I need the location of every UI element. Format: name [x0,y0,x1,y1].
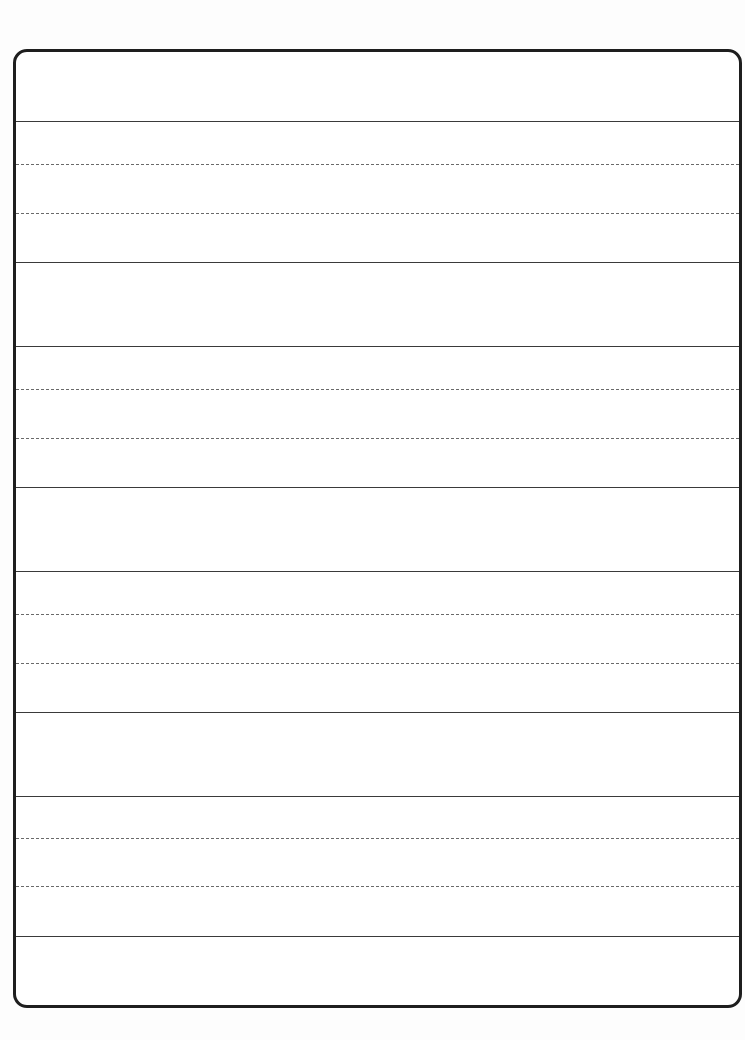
guide-rule [16,438,739,439]
guide-rule [16,164,739,165]
baseline-rule [16,796,739,797]
baseline-rule [16,262,739,263]
baseline-rule [16,712,739,713]
guide-rule [16,886,739,887]
guide-rule [16,213,739,214]
baseline-rule [16,571,739,572]
baseline-rule [16,487,739,488]
baseline-rule [16,121,739,122]
guide-rule [16,614,739,615]
practice-sheet-frame [13,49,742,1008]
guide-rule [16,838,739,839]
baseline-rule [16,936,739,937]
baseline-rule [16,346,739,347]
guide-rule [16,663,739,664]
guide-rule [16,389,739,390]
